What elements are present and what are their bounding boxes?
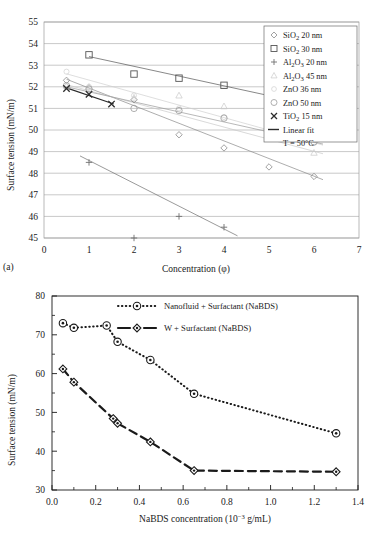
y-tick-label: 48 (29, 169, 39, 179)
series-line (63, 323, 336, 433)
data-point-diamond-dot (112, 417, 114, 419)
legend-label: W + Surfactant (NaBDS) (164, 323, 251, 333)
y-tick-label: 54 (29, 39, 39, 49)
legend-label: Al2O3 20 nm (283, 58, 328, 68)
data-point-circle-dot (335, 432, 338, 435)
data-point-diamond-dot (149, 441, 151, 443)
panel-a-label: (a) (3, 262, 14, 272)
linear-fit-line (80, 156, 238, 236)
chart-b-data-points (59, 319, 340, 475)
data-point-diamond (221, 145, 227, 151)
data-point-diamond-dot (73, 381, 75, 383)
data-point-square (131, 71, 137, 77)
legend-label: T = 50°C (283, 139, 314, 148)
x-tick-label: 1.2 (308, 497, 320, 507)
data-point-diamond-dot (193, 469, 195, 471)
x-tick-label: 7 (357, 245, 362, 255)
figure-surface-tension: 4546474849505152535455 01234567 Surface … (0, 0, 378, 555)
chart-a-svg: 4546474849505152535455 01234567 Surface … (0, 0, 378, 280)
y-tick-label: 45 (29, 233, 39, 243)
y-tick-label: 70 (36, 330, 46, 340)
legend-label: Linear fit (283, 126, 315, 135)
data-point-circle-dot (73, 327, 76, 330)
data-point-dot (131, 93, 136, 98)
chart-panel-a: 4546474849505152535455 01234567 Surface … (0, 0, 378, 280)
chart-b-y-axis-title: Surface tension (mN/m) (7, 374, 18, 466)
data-point-circle-dot (136, 305, 139, 308)
y-tick-label: 30 (36, 485, 46, 495)
x-title-text: Concentration (φ) (162, 264, 230, 275)
legend-box (264, 26, 357, 142)
y-tick-label: 52 (29, 82, 39, 92)
data-point-plus (131, 235, 137, 241)
chart-a-y-tick-labels: 4546474849505152535455 (29, 17, 39, 243)
x-tick-label: 5 (267, 245, 272, 255)
y-tick-label: 50 (36, 408, 46, 418)
legend-label: SiO2 30 nm (283, 45, 323, 55)
legend-label: Al2O3 45 nm (283, 72, 328, 82)
x-tick-label: 3 (177, 245, 182, 255)
data-point-triangle (176, 92, 182, 98)
x-tick-label: 6 (312, 245, 317, 255)
series-line (63, 369, 336, 472)
x-tick-label: 0.2 (90, 497, 102, 507)
legend-label: ZnO 50 nm (283, 99, 322, 108)
data-point-diamond (266, 164, 272, 170)
y-tick-label: 46 (29, 212, 39, 222)
y-tick-label: 53 (29, 61, 39, 71)
data-point-plus (86, 159, 92, 165)
data-point-circle-dot (116, 340, 119, 343)
data-point-diamond-dot (136, 327, 138, 329)
x-tick-label: 0.6 (177, 497, 189, 507)
chart-a-x-tick-labels: 01234567 (42, 245, 362, 255)
data-point-diamond-dot (62, 368, 64, 370)
data-point-dot (64, 69, 69, 74)
data-point-triangle (311, 149, 317, 155)
y-tick-label: 60 (36, 369, 46, 379)
data-point-circle-dot (193, 392, 196, 395)
y-tick-label: 50 (29, 125, 39, 135)
x-tick-label: 0 (42, 245, 47, 255)
x-tick-label: 2 (132, 245, 137, 255)
linear-fit-line (89, 57, 278, 98)
chart-b-x-tick-labels: 0.00.20.40.60.81.01.21.4 (46, 497, 364, 507)
y-tick-label: 80 (36, 291, 46, 301)
x-tick-label: 1 (87, 245, 92, 255)
chart-a-legend: SiO2 20 nmSiO2 30 nmAl2O3 20 nmAl2O3 45 … (264, 26, 357, 148)
y-tick-label: 51 (29, 104, 39, 114)
x-tick-label: 1.0 (265, 497, 277, 507)
chart-panel-b: 304050607080 0.00.20.40.60.81.01.21.4 Su… (0, 280, 378, 555)
chart-a-y-axis-title: Surface tension (mN/m) (6, 99, 17, 191)
x-tick-label: 0.8 (221, 497, 233, 507)
y-tick-label: 49 (29, 147, 39, 157)
chart-b-y-tick-labels: 304050607080 (36, 291, 46, 495)
legend-label: ZnO 36 nm (283, 85, 322, 94)
data-point-diamond-dot (335, 471, 337, 473)
chart-a-x-axis-title: Concentration (φ) (162, 264, 230, 275)
chart-b-legend: Nanofluid + Surfactant (NaBDS)W + Surfac… (118, 301, 278, 333)
data-point-circle-dot (62, 322, 65, 325)
chart-b-x-axis-title: NaBDS concentration (10−3 g/mL) (139, 513, 271, 525)
x-tick-label: 0.0 (46, 497, 58, 507)
y-tick-label: 40 (36, 447, 46, 457)
data-point-diamond-dot (116, 422, 118, 424)
data-point-plus (221, 224, 227, 230)
y-tick-label: 47 (29, 190, 39, 200)
data-point-circle-dot (105, 324, 108, 327)
data-point-diamond (176, 132, 182, 138)
data-point-circle-dot (149, 359, 152, 362)
chart-b-svg: 304050607080 0.00.20.40.60.81.01.21.4 Su… (0, 280, 378, 555)
x-tick-label: 1.4 (352, 497, 364, 507)
legend-label: Nanofluid + Surfactant (NaBDS) (164, 301, 278, 311)
legend-label: SiO2 20 nm (283, 31, 323, 41)
x-tick-label: 0.4 (133, 497, 145, 507)
x-tick-label: 4 (222, 245, 227, 255)
chart-b-series-lines (63, 323, 336, 472)
data-point-triangle (221, 103, 227, 109)
y-tick-label: 55 (29, 17, 39, 27)
legend-label: TiO2 15 nm (283, 112, 323, 122)
data-point-plus (176, 213, 182, 219)
